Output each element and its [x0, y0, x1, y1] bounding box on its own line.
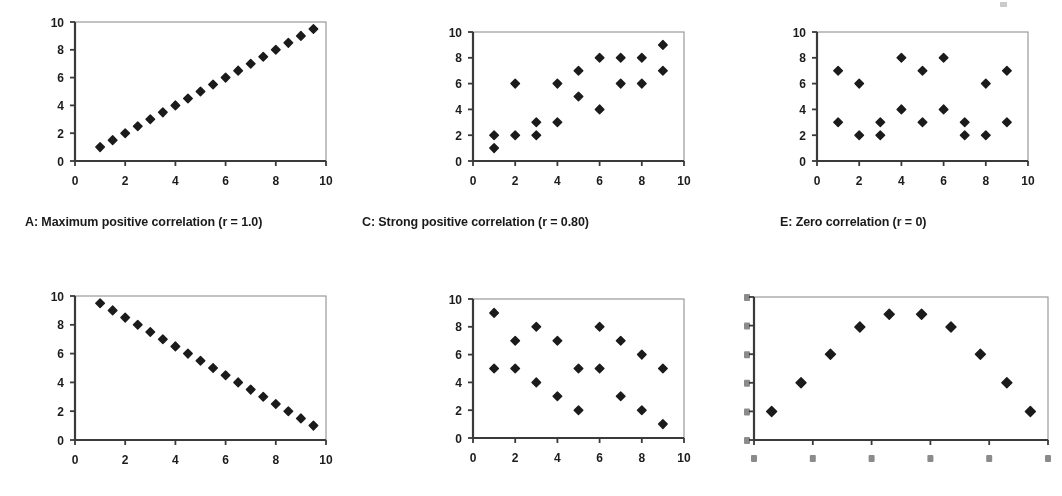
- panel-a: 02468100246810: [0, 8, 360, 203]
- svg-text:0: 0: [72, 453, 79, 467]
- svg-text:6: 6: [455, 348, 462, 362]
- panel-e-plot: 02468100246810: [742, 18, 1062, 203]
- svg-text:10: 10: [449, 293, 463, 307]
- panel-b-plot: 02468100246810: [0, 282, 360, 482]
- svg-text:4: 4: [554, 174, 561, 188]
- caption-c: C: Strong positive correlation (r = 0.80…: [362, 215, 589, 229]
- svg-text:8: 8: [982, 174, 989, 188]
- svg-text:10: 10: [1021, 174, 1035, 188]
- svg-text:0: 0: [72, 174, 79, 188]
- svg-text:4: 4: [172, 174, 179, 188]
- svg-text:10: 10: [51, 16, 65, 30]
- svg-text:10: 10: [319, 174, 333, 188]
- svg-text:8: 8: [455, 51, 462, 65]
- panel-a-plot: 02468100246810: [0, 8, 360, 203]
- svg-text:10: 10: [677, 174, 691, 188]
- figure-sheet: 02468100246810 02468100246810 0246810024…: [0, 0, 1062, 496]
- svg-text:6: 6: [596, 174, 603, 188]
- svg-text:2: 2: [799, 129, 806, 143]
- svg-text:10: 10: [319, 453, 333, 467]
- svg-text:6: 6: [222, 453, 229, 467]
- svg-text:2: 2: [122, 453, 129, 467]
- svg-text:6: 6: [57, 71, 64, 85]
- svg-text:2: 2: [122, 174, 129, 188]
- scan-artifact: [1000, 2, 1007, 7]
- panel-e: 02468100246810: [742, 18, 1062, 203]
- svg-text:8: 8: [57, 43, 64, 57]
- panel-f-plot: [742, 285, 1062, 480]
- caption-a: A: Maximum positive correlation (r = 1.0…: [25, 215, 262, 229]
- svg-text:0: 0: [470, 451, 477, 465]
- svg-text:4: 4: [554, 451, 561, 465]
- svg-text:0: 0: [57, 434, 64, 448]
- svg-text:0: 0: [470, 174, 477, 188]
- svg-text:2: 2: [512, 174, 519, 188]
- svg-text:4: 4: [172, 453, 179, 467]
- svg-text:6: 6: [222, 174, 229, 188]
- caption-e: E: Zero correlation (r = 0): [780, 215, 926, 229]
- svg-text:2: 2: [455, 404, 462, 418]
- svg-text:4: 4: [57, 376, 64, 390]
- svg-text:10: 10: [677, 451, 691, 465]
- svg-text:0: 0: [455, 432, 462, 446]
- svg-text:4: 4: [455, 376, 462, 390]
- panel-d: 02468100246810: [398, 285, 718, 480]
- svg-text:6: 6: [57, 347, 64, 361]
- svg-text:4: 4: [799, 103, 806, 117]
- svg-text:4: 4: [455, 103, 462, 117]
- panel-c-plot: 02468100246810: [398, 18, 718, 203]
- svg-text:6: 6: [596, 451, 603, 465]
- svg-text:8: 8: [638, 174, 645, 188]
- svg-text:0: 0: [799, 155, 806, 169]
- svg-text:8: 8: [272, 453, 279, 467]
- svg-text:2: 2: [57, 127, 64, 141]
- svg-text:6: 6: [799, 77, 806, 91]
- svg-text:4: 4: [898, 174, 905, 188]
- svg-text:6: 6: [940, 174, 947, 188]
- panel-f: [742, 285, 1062, 480]
- svg-text:0: 0: [57, 155, 64, 169]
- svg-text:2: 2: [57, 405, 64, 419]
- svg-text:10: 10: [449, 26, 463, 40]
- svg-text:2: 2: [512, 451, 519, 465]
- svg-text:6: 6: [455, 77, 462, 91]
- svg-text:0: 0: [455, 155, 462, 169]
- svg-text:2: 2: [856, 174, 863, 188]
- svg-text:8: 8: [455, 320, 462, 334]
- svg-text:4: 4: [57, 99, 64, 113]
- svg-text:8: 8: [57, 318, 64, 332]
- svg-text:10: 10: [793, 26, 807, 40]
- panel-c: 02468100246810: [398, 18, 718, 203]
- svg-text:8: 8: [638, 451, 645, 465]
- svg-text:0: 0: [814, 174, 821, 188]
- panel-b: 02468100246810: [0, 282, 360, 482]
- svg-text:2: 2: [455, 129, 462, 143]
- svg-text:8: 8: [799, 51, 806, 65]
- panel-d-plot: 02468100246810: [398, 285, 718, 480]
- svg-text:10: 10: [51, 290, 65, 304]
- svg-text:8: 8: [272, 174, 279, 188]
